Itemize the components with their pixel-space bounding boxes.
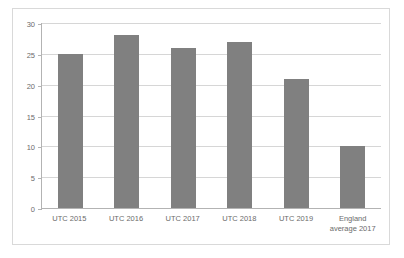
x-axis-label-line: England <box>324 214 381 224</box>
x-axis-labels: UTC 2015UTC 2016UTC 2017UTC 2018UTC 2019… <box>41 211 381 234</box>
bar[interactable] <box>340 146 365 208</box>
bar-slot <box>325 23 382 208</box>
bar[interactable] <box>58 54 83 208</box>
bar-slot <box>42 23 99 208</box>
y-tick-label-5: 5 <box>31 174 35 183</box>
y-tick-label-25: 25 <box>27 50 35 59</box>
y-tick-label-10: 10 <box>27 143 35 152</box>
x-axis-label: UTC 2019 <box>268 211 325 234</box>
bar[interactable] <box>114 35 139 208</box>
bar[interactable] <box>284 79 309 209</box>
bar[interactable] <box>171 48 196 208</box>
x-axis-label: UTC 2015 <box>41 211 98 234</box>
chart-frame: 051015202530 UTC 2015UTC 2016UTC 2017UTC… <box>12 8 390 245</box>
y-tick-mark-0 <box>38 209 42 210</box>
bar[interactable] <box>227 42 252 209</box>
x-axis-label: UTC 2016 <box>98 211 155 234</box>
bars-group <box>42 23 381 208</box>
gridline-0: 0 <box>42 208 381 209</box>
x-axis-label-line: UTC 2017 <box>154 214 211 224</box>
x-axis-label: Englandaverage 2017 <box>324 211 381 234</box>
x-axis-label: UTC 2018 <box>211 211 268 234</box>
y-tick-label-30: 30 <box>27 20 35 29</box>
x-axis-label-line: UTC 2018 <box>211 214 268 224</box>
y-tick-label-0: 0 <box>31 205 35 214</box>
y-tick-label-20: 20 <box>27 81 35 90</box>
x-axis-label: UTC 2017 <box>154 211 211 234</box>
bar-slot <box>99 23 156 208</box>
x-axis-label-line: UTC 2019 <box>268 214 325 224</box>
y-tick-label-15: 15 <box>27 112 35 121</box>
x-axis-label-line: UTC 2016 <box>98 214 155 224</box>
plot-wrapper: 051015202530 UTC 2015UTC 2016UTC 2017UTC… <box>13 9 389 244</box>
plot-area: 051015202530 <box>41 23 381 209</box>
bar-slot <box>268 23 325 208</box>
x-axis-label-line: UTC 2015 <box>41 214 98 224</box>
bar-slot <box>155 23 212 208</box>
bar-slot <box>212 23 269 208</box>
x-axis-label-line: average 2017 <box>324 224 381 234</box>
